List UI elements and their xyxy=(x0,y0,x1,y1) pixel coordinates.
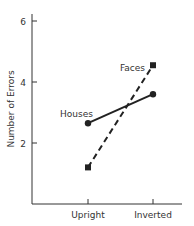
data-point-faces xyxy=(150,62,156,68)
data-point-faces xyxy=(85,164,91,170)
x-tick-label: Upright xyxy=(71,210,105,220)
y-axis-label: Number of Errors xyxy=(6,70,16,147)
series-line-houses xyxy=(88,94,153,123)
labels-group: HousesFaces xyxy=(60,63,145,119)
y-tick-label: 6 xyxy=(20,17,26,27)
y-tick-label: 2 xyxy=(20,139,26,149)
series-label-houses: Houses xyxy=(60,109,93,119)
data-point-houses xyxy=(150,91,156,97)
axes: 246UprightInvertedNumber of Errors xyxy=(6,14,182,220)
series-label-faces: Faces xyxy=(120,63,145,73)
data-point-houses xyxy=(85,120,91,126)
line-chart: 246UprightInvertedNumber of Errors House… xyxy=(0,0,194,226)
y-tick-label: 4 xyxy=(20,78,26,88)
x-tick-label: Inverted xyxy=(134,210,172,220)
series-line-faces xyxy=(88,65,153,167)
series-group xyxy=(85,62,156,170)
